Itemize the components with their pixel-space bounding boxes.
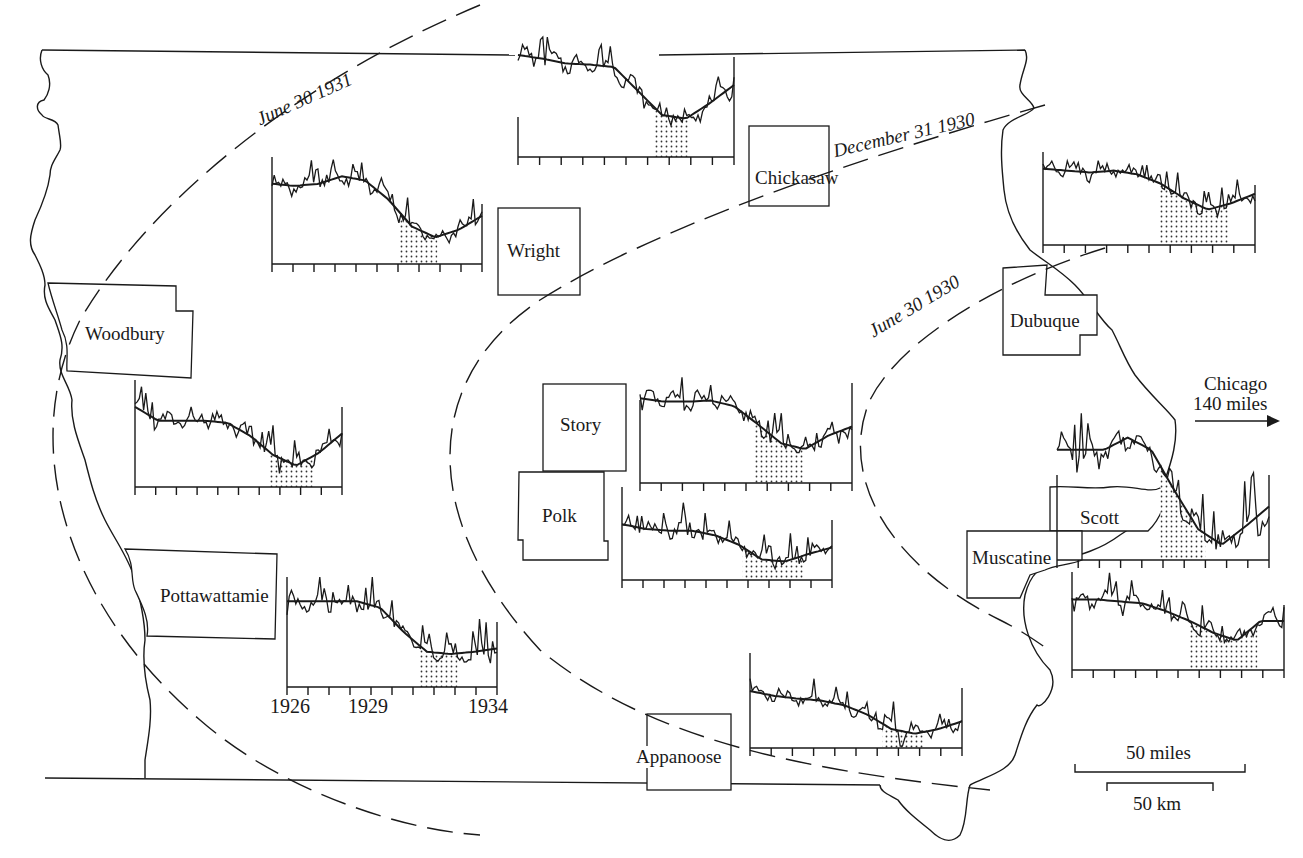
inset-chart [640, 377, 852, 491]
county-label-wright: Wright [507, 240, 560, 262]
county-label-dubuque: Dubuque [1010, 310, 1080, 332]
inset-chart [518, 37, 734, 165]
isoline-june-1931 [53, 5, 480, 835]
iowa-map [0, 0, 1303, 858]
right-arrow-icon [1195, 415, 1280, 427]
inset-chart [135, 380, 342, 495]
inset-charts [135, 37, 1284, 756]
county-label-chickasaw: Chickasaw [755, 167, 838, 189]
county-label-scott: Scott [1080, 507, 1119, 529]
axis-tick-1934: 1934 [468, 695, 508, 718]
chicago-distance-label: 140 miles [1193, 393, 1267, 415]
county-label-story: Story [560, 414, 601, 436]
county-label-woodbury: Woodbury [85, 323, 165, 345]
county-label-appanoose: Appanoose [636, 746, 721, 768]
county-chickasaw[interactable] [749, 126, 829, 206]
county-label-muscatine: Muscatine [972, 547, 1051, 569]
county-outlines [48, 126, 1168, 790]
scale-bar-km [1107, 783, 1213, 791]
county-label-pottawattamie: Pottawattamie [160, 585, 269, 607]
inset-chart [272, 157, 482, 272]
axis-tick-1929: 1929 [348, 695, 388, 718]
inset-chart [287, 577, 497, 695]
inset-chart [1043, 152, 1255, 253]
scale-km-label: 50 km [1133, 793, 1181, 815]
scale-bar [1075, 764, 1245, 791]
chicago-label: Chicago [1204, 373, 1267, 395]
inset-chart [1072, 572, 1284, 678]
axis-tick-1926: 1926 [270, 695, 310, 718]
county-label-polk: Polk [542, 505, 577, 527]
inset-chart [622, 487, 832, 588]
scale-miles-label: 50 miles [1126, 742, 1191, 764]
scale-bar-miles [1075, 764, 1245, 772]
inset-chart [750, 653, 962, 756]
